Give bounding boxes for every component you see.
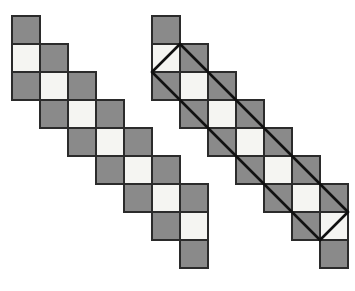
grid-cell-gray [124, 128, 152, 156]
grid-cell-light [40, 72, 68, 100]
grid-cell-gray [40, 44, 68, 72]
grid-cell-gray [68, 72, 96, 100]
grid-cell-gray [96, 156, 124, 184]
grid-cell-gray [40, 100, 68, 128]
grid-cell-gray [152, 156, 180, 184]
grid-cell-gray [96, 100, 124, 128]
grid-cell-light [292, 184, 320, 212]
grid-cell-gray [12, 16, 40, 44]
grid-cell-light [68, 100, 96, 128]
grid-cell-light [180, 72, 208, 100]
grid-cell-gray [180, 240, 208, 268]
grid-cell-light [96, 128, 124, 156]
grid-cell-light [264, 156, 292, 184]
grid-cell-gray [152, 16, 180, 44]
grid-cell-light [152, 184, 180, 212]
grid-cell-gray [180, 184, 208, 212]
grid-cell-gray [68, 128, 96, 156]
figure-canvas [0, 0, 355, 291]
grid-cell-gray [320, 240, 348, 268]
grid-cell-gray [124, 184, 152, 212]
grid-cell-gray [152, 212, 180, 240]
grid-cell-light [180, 212, 208, 240]
grid-cell-light [12, 44, 40, 72]
grid-cell-gray [12, 72, 40, 100]
staircase-diagram [0, 0, 355, 291]
grid-cell-light [124, 156, 152, 184]
grid-cell-light [208, 100, 236, 128]
grid-cell-light [236, 128, 264, 156]
